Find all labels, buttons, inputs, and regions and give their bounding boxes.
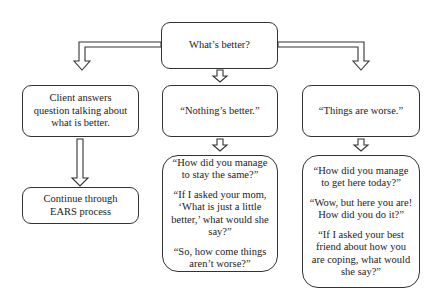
left-next-label: Continue through EARS process: [31, 193, 130, 218]
left-answer-label: Client answers question talking about wh…: [31, 92, 130, 130]
right-question: “How did you manage to get here today?”: [309, 165, 413, 190]
middle-answer-label: “Nothing’s better.”: [180, 105, 259, 118]
right-question: “Wow, but here you are! How did you do i…: [309, 197, 413, 222]
middle-questions-box: “How did you manage to stay the same?” “…: [162, 155, 278, 272]
arrow-down-icon: [213, 139, 227, 151]
arrow-right-icon: [278, 42, 369, 70]
right-question: “If I asked your best friend about how y…: [309, 229, 413, 279]
right-answer-box: “Things are worse.”: [302, 85, 420, 137]
arrow-down-icon: [354, 139, 368, 151]
top-question-box: What’s better?: [161, 22, 278, 69]
middle-answer-box: “Nothing’s better.”: [162, 85, 278, 137]
top-question-label: What’s better?: [189, 39, 250, 52]
middle-question: “How did you manage to stay the same?”: [169, 157, 271, 182]
left-next-box: Continue through EARS process: [22, 187, 139, 224]
middle-question: “So, how come things aren’t worse?”: [169, 246, 271, 271]
arrow-down-icon: [72, 139, 88, 186]
right-answer-label: “Things are worse.”: [319, 105, 403, 118]
left-answer-box: Client answers question talking about wh…: [22, 85, 139, 137]
arrow-left-icon: [74, 42, 161, 70]
arrow-down-icon: [213, 70, 227, 82]
right-questions-box: “How did you manage to get here today?” …: [302, 155, 420, 288]
middle-question: “If I asked your mom, ‘What is just a li…: [169, 189, 271, 239]
